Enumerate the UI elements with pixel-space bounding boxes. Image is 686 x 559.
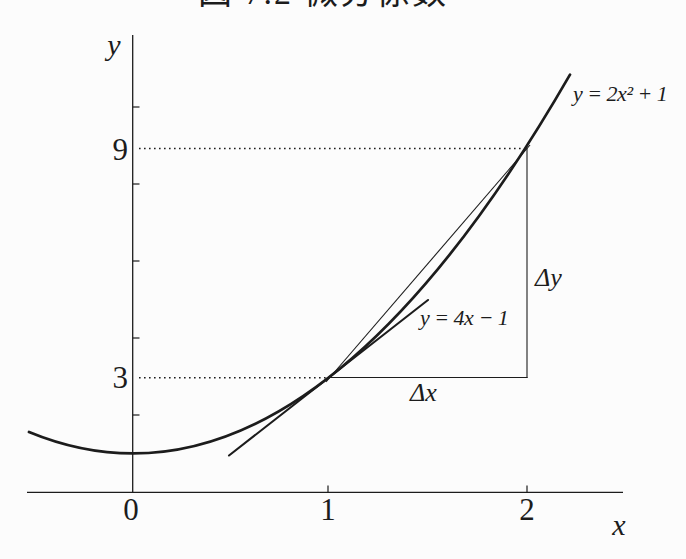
y-axis-label: y	[100, 30, 128, 60]
x-tick-label-1: 1	[311, 494, 345, 525]
x-axis-label: x	[605, 510, 633, 540]
delta-y-label: Δy	[535, 265, 562, 291]
y-tick-label-3: 3	[94, 362, 128, 393]
x-tick-label-2: 2	[510, 494, 544, 525]
delta-x-label: Δx	[410, 380, 437, 406]
parabola-equation-label: y = 2x² + 1	[573, 83, 667, 105]
x-tick-label-0: 0	[114, 494, 148, 525]
parabola-curve	[29, 75, 570, 454]
figure-canvas: 図 7.2 微分係数 y x 9 3 0 1 2 y = 2x² + 1 y =…	[0, 0, 686, 559]
y-tick-label-9: 9	[94, 134, 128, 165]
figure-caption: 図 7.2 微分係数	[198, 0, 448, 10]
tangent-equation-label: y = 4x − 1	[420, 307, 508, 329]
secant-line	[326, 145, 530, 382]
